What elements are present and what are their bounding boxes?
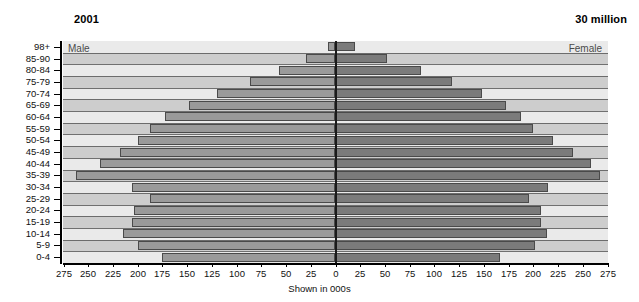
bar-female-10-14 [336,229,548,238]
y-tick-label-70-74: 70-74 [26,89,50,99]
x-tick-mark [336,263,337,267]
x-axis-title: Shown in 000s [0,283,639,294]
female-series-label: Female [569,43,602,54]
bar-male-60-64 [165,112,335,121]
bar-female-30-34 [336,183,549,192]
x-tick-mark [509,263,510,267]
bar-female-0-4 [336,253,500,262]
bar-male-35-39 [76,171,335,180]
bar-female-55-59 [336,124,534,133]
x-tick-mark [533,263,534,267]
y-tick-label-55-59: 55-59 [26,124,50,134]
y-tick-label-30-34: 30-34 [26,182,50,192]
x-tick-mark [237,263,238,267]
y-tick-label-80-84: 80-84 [26,65,50,75]
x-tick-mark [113,263,114,267]
bar-male-80-84 [279,66,335,75]
x-tick-mark [385,263,386,267]
x-tick-mark [583,263,584,267]
y-axis-age-groups: 98+85-9080-8475-7970-7465-6960-6455-5950… [0,41,63,265]
y-tick-mark [54,152,60,153]
bar-female-60-64 [336,112,522,121]
bar-male-65-69 [189,101,335,110]
y-tick-label-85-90: 85-90 [26,54,50,64]
x-tick-mark [212,263,213,267]
y-tick-mark [54,140,60,141]
bar-female-65-69 [336,101,506,110]
y-tick-label-35-39: 35-39 [26,170,50,180]
y-tick-label-0-4: 0-4 [36,252,50,262]
y-tick-mark [54,199,60,200]
bar-male-85-90 [306,54,336,63]
bar-female-40-44 [336,159,591,168]
bar-female-20-24 [336,206,542,215]
y-tick-mark [54,245,60,246]
bar-male-55-59 [150,124,336,133]
x-tick-mark [64,263,65,267]
y-tick-mark [54,117,60,118]
y-tick-mark [54,105,60,106]
bar-male-30-34 [132,183,336,192]
bar-female-98+ [336,42,356,51]
x-tick-mark [410,263,411,267]
y-tick-label-98+: 98+ [34,42,50,52]
y-tick-mark [54,222,60,223]
x-tick-mark [459,263,460,267]
bar-female-75-79 [336,77,453,86]
chart-total-label: 30 million [575,13,627,25]
x-tick-mark [138,263,139,267]
bar-female-45-49 [336,148,573,157]
y-tick-label-50-54: 50-54 [26,135,50,145]
bar-male-70-74 [217,89,336,98]
bar-female-25-29 [336,194,530,203]
bar-male-75-79 [250,77,335,86]
bar-female-35-39 [336,171,600,180]
bar-male-40-44 [100,159,335,168]
x-tick-mark [311,263,312,267]
bar-female-15-19 [336,218,542,227]
bar-female-80-84 [336,66,421,75]
x-tick-mark [187,263,188,267]
chart-year-label: 2001 [74,13,99,25]
bar-male-15-19 [132,218,336,227]
x-tick-mark [261,263,262,267]
bar-male-20-24 [134,206,336,215]
bar-female-50-54 [336,136,554,145]
y-tick-label-20-24: 20-24 [26,205,50,215]
y-tick-label-45-49: 45-49 [26,147,50,157]
bar-male-50-54 [138,136,336,145]
bar-female-85-90 [336,54,387,63]
x-tick-mark [286,263,287,267]
y-tick-mark [54,210,60,211]
y-tick-mark [54,82,60,83]
bar-male-45-49 [120,148,336,157]
bar-male-10-14 [123,229,336,238]
x-tick-mark [608,263,609,267]
y-tick-label-75-79: 75-79 [26,77,50,87]
y-tick-label-40-44: 40-44 [26,159,50,169]
male-series-label: Male [68,43,90,54]
bar-male-0-4 [162,253,335,262]
bar-female-5-9 [336,241,536,250]
y-tick-label-10-14: 10-14 [26,229,50,239]
y-tick-label-60-64: 60-64 [26,112,50,122]
bar-female-70-74 [336,89,482,98]
x-tick-mark [162,263,163,267]
y-tick-mark [54,187,60,188]
bar-male-5-9 [138,241,336,250]
y-tick-label-25-29: 25-29 [26,194,50,204]
y-tick-label-5-9: 5-9 [36,240,50,250]
y-tick-mark [54,234,60,235]
y-tick-mark [54,129,60,130]
y-axis-spine [60,41,62,264]
x-tick-mark [88,263,89,267]
population-pyramid-figure: 2001 30 million 98+85-9080-8475-7970-746… [0,0,639,302]
x-tick-mark [484,263,485,267]
y-tick-mark [54,164,60,165]
y-tick-mark [54,59,60,60]
x-tick-mark [434,263,435,267]
y-tick-mark [54,70,60,71]
y-tick-label-65-69: 65-69 [26,100,50,110]
y-tick-mark [54,175,60,176]
bar-male-25-29 [150,194,336,203]
